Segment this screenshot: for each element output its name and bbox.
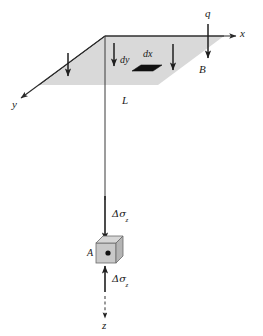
stress-label-bottom: Δσz xyxy=(112,274,129,287)
point-label-a: A xyxy=(87,248,93,258)
axis-label-y: y xyxy=(12,99,17,110)
point-a-dot xyxy=(105,250,110,255)
element-label-dy: dy xyxy=(120,55,129,65)
stress-label-top-subscript: z xyxy=(126,216,129,224)
area-label-b: B xyxy=(199,64,206,75)
stress-label-bottom-subscript: z xyxy=(126,281,129,289)
axis-label-z: z xyxy=(102,320,106,331)
stress-label-top: Δσz xyxy=(112,209,129,222)
stress-label-top-symbol: Δσ xyxy=(112,208,126,219)
load-label-q: q xyxy=(205,8,211,19)
axis-label-x: x xyxy=(240,28,245,39)
depth-label-l: L xyxy=(122,95,128,106)
figure-root: x y z q B L dx dy A Δσz Δσz xyxy=(0,0,263,336)
figure-canvas xyxy=(0,0,263,336)
element-label-dx: dx xyxy=(143,49,152,59)
soil-element-cube xyxy=(96,236,123,263)
stress-label-bottom-symbol: Δσ xyxy=(112,273,126,284)
loaded-area-plane xyxy=(39,36,224,85)
